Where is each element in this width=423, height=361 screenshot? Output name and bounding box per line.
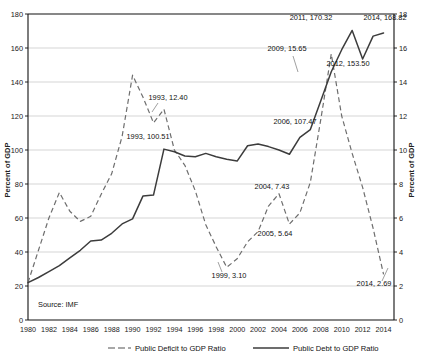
left-tick-label: 60 [15, 214, 23, 223]
x-tick-label: 2002 [250, 325, 266, 334]
data-point-annotation: 2005, 5.64 [258, 229, 293, 238]
data-point-annotation: 1993, 12.40 [148, 93, 187, 102]
x-tick-label: 1980 [20, 325, 36, 334]
data-point-annotation: 2014, 168.82 [363, 13, 406, 22]
left-tick-label: 180 [11, 10, 23, 19]
x-tick-label: 1992 [145, 325, 161, 334]
left-tick-label: 40 [15, 248, 23, 257]
left-tick-label: 100 [11, 146, 23, 155]
right-tick-label: 14 [399, 78, 407, 87]
right-axis-title: Percent of GDP [407, 142, 416, 197]
data-point-annotation: 1999, 3.10 [212, 271, 247, 280]
right-tick-label: 16 [399, 44, 407, 53]
x-tick-label: 1996 [187, 325, 203, 334]
x-tick-label: 2004 [271, 325, 287, 334]
right-tick-label: 12 [399, 112, 407, 121]
right-tick-label: 6 [399, 214, 403, 223]
x-tick-label: 2012 [355, 325, 371, 334]
left-tick-label: 80 [15, 180, 23, 189]
left-tick-label: 0 [19, 316, 23, 325]
data-point-annotation: 2014, 2.69 [357, 279, 392, 288]
x-tick-label: 1998 [208, 325, 224, 334]
left-tick-label: 160 [11, 44, 23, 53]
x-tick-label: 1986 [83, 325, 99, 334]
x-tick-label: 2006 [292, 325, 308, 334]
data-point-annotation: 2012, 153.50 [326, 59, 369, 68]
data-point-annotation: 2011, 170.32 [290, 13, 333, 22]
left-tick-label: 120 [11, 112, 23, 121]
right-tick-label: 2 [399, 282, 403, 291]
x-tick-label: 2014 [376, 325, 392, 334]
legend-label[interactable]: Public Debt to GDP Ratio [293, 344, 379, 353]
x-tick-label: 1994 [166, 325, 182, 334]
x-tick-label: 1990 [125, 325, 141, 334]
data-point-annotation: 2004, 7.43 [255, 182, 290, 191]
legend-label[interactable]: Public Deficit to GDP Ratio [135, 344, 226, 353]
right-tick-label: 4 [399, 248, 403, 257]
data-point-annotation: 2006, 107.47 [273, 117, 316, 126]
right-tick-label: 0 [399, 316, 403, 325]
chart-container: 020406080100120140160180 024681012141618… [0, 0, 423, 361]
data-point-annotation: 1993, 100.51 [126, 132, 169, 141]
gdp-debt-deficit-chart: 020406080100120140160180 024681012141618… [0, 0, 423, 361]
x-tick-label: 2008 [313, 325, 329, 334]
x-tick-label: 1984 [62, 325, 78, 334]
left-tick-label: 20 [15, 282, 23, 291]
x-tick-label: 1982 [41, 325, 57, 334]
x-tick-label: 2000 [229, 325, 245, 334]
left-tick-label: 140 [11, 78, 23, 87]
source-note: Source: IMF [38, 300, 79, 309]
data-point-annotation: 2009, 15.65 [267, 44, 306, 53]
x-tick-label: 1988 [104, 325, 120, 334]
right-tick-label: 8 [399, 180, 403, 189]
right-tick-label: 10 [399, 146, 407, 155]
x-tick-label: 2010 [334, 325, 350, 334]
left-axis-title: Percent of GDP [3, 142, 12, 197]
